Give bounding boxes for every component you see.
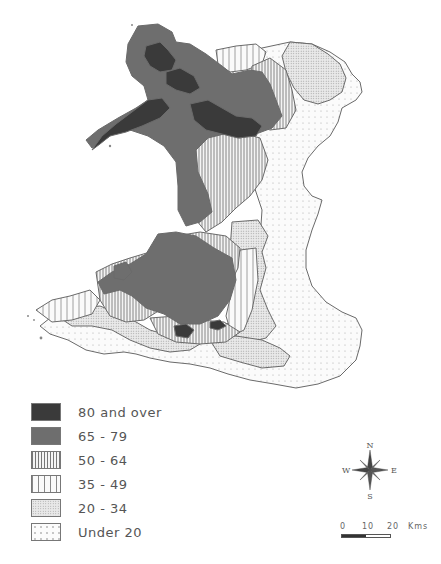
svg-text:N: N xyxy=(367,441,374,450)
swatch-under-20 xyxy=(31,523,61,541)
scale-tick-10: 10 xyxy=(362,522,374,531)
swatch-35-49 xyxy=(31,475,61,493)
scale-bar-graphic xyxy=(341,534,391,538)
legend-label: 20 - 34 xyxy=(78,501,128,516)
map-regions xyxy=(36,24,362,388)
swatch-20-34 xyxy=(31,499,61,517)
legend-item-65-79: 65 - 79 xyxy=(31,424,162,448)
compass-rose: N S W E xyxy=(340,440,400,500)
scale-bar: 0 10 20 Kms xyxy=(336,522,436,552)
legend-item-35-49: 35 - 49 xyxy=(31,472,162,496)
legend-item-under-20: Under 20 xyxy=(31,520,162,544)
swatch-50-64 xyxy=(31,451,61,469)
legend-item-80-plus: 80 and over xyxy=(31,400,162,424)
legend-item-50-64: 50 - 64 xyxy=(31,448,162,472)
legend-label: Under 20 xyxy=(78,525,142,540)
legend-label: 50 - 64 xyxy=(78,453,128,468)
legend-label: 65 - 79 xyxy=(78,429,128,444)
legend-label: 80 and over xyxy=(78,405,162,420)
scale-unit: Kms xyxy=(408,522,428,531)
legend: 80 and over 65 - 79 50 - 64 35 - 49 20 -… xyxy=(31,400,162,544)
legend-label: 35 - 49 xyxy=(78,477,128,492)
wales-choropleth-map xyxy=(0,0,441,400)
svg-text:E: E xyxy=(391,466,397,475)
scale-tick-0: 0 xyxy=(340,522,346,531)
legend-item-20-34: 20 - 34 xyxy=(31,496,162,520)
swatch-80-plus xyxy=(31,403,61,421)
svg-text:S: S xyxy=(367,492,372,500)
scale-tick-20: 20 xyxy=(387,522,399,531)
compass-rose-icon: N S W E xyxy=(340,440,400,500)
svg-text:W: W xyxy=(342,466,351,475)
swatch-65-79 xyxy=(31,427,61,445)
